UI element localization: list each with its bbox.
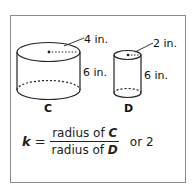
cylinder-name-c: C bbox=[44, 102, 52, 115]
cylinder-figure: 4 in. 6 in. C 2 in. 6 in. D bbox=[0, 0, 196, 191]
numerator-text: radius of bbox=[52, 126, 108, 140]
fraction-denominator: radius of D bbox=[50, 142, 120, 157]
radius-label-d: 2 in. bbox=[153, 37, 177, 50]
center-dot-d bbox=[127, 54, 130, 57]
denominator-text: radius of bbox=[52, 143, 108, 157]
fraction: radius of C radius of D bbox=[50, 126, 120, 157]
center-dot-c bbox=[48, 51, 51, 54]
radius-label-c: 4 in. bbox=[84, 33, 108, 46]
equals-sign: = bbox=[35, 134, 46, 149]
formula-result: or 2 bbox=[130, 135, 154, 149]
cylinder-name-d: D bbox=[124, 102, 133, 115]
height-label-c: 6 in. bbox=[83, 66, 107, 79]
numerator-variable: C bbox=[108, 126, 117, 140]
fraction-numerator: radius of C bbox=[50, 126, 119, 142]
denominator-variable: D bbox=[108, 143, 118, 157]
height-label-d: 6 in. bbox=[144, 69, 168, 82]
scale-factor-formula: k = radius of C radius of D or 2 bbox=[22, 126, 154, 157]
formula-variable: k bbox=[22, 134, 31, 149]
